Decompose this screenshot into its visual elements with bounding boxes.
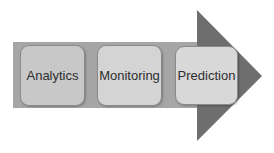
step-analytics: Analytics <box>20 45 85 106</box>
step-label: Monitoring <box>99 68 160 83</box>
step-label: Analytics <box>26 68 78 83</box>
step-monitoring: Monitoring <box>97 45 162 106</box>
step-label: Prediction <box>178 68 236 83</box>
step-prediction: Prediction <box>175 46 238 105</box>
